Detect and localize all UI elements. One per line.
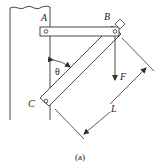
pin-C xyxy=(44,99,48,103)
label-theta: θ xyxy=(55,66,60,77)
label-A: A xyxy=(40,12,48,23)
label-F: F xyxy=(119,71,127,82)
pin-B xyxy=(113,30,117,34)
label-L: L xyxy=(110,103,117,114)
dimension-L xyxy=(55,38,154,139)
diagonal-bar-BC xyxy=(40,26,121,106)
pin-A xyxy=(44,30,48,34)
label-C: C xyxy=(28,98,35,109)
diagram-canvas: A B C θ F L (a) xyxy=(0,0,165,167)
horizontal-bar-AB xyxy=(40,27,119,36)
caption: (a) xyxy=(75,152,85,162)
label-B: B xyxy=(104,11,110,22)
